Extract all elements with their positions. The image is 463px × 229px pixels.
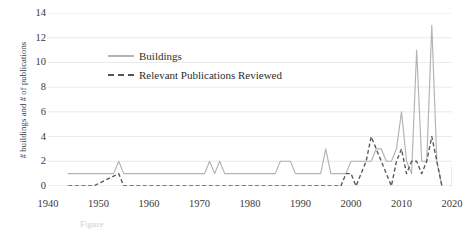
x-tick-label-1990: 1990: [290, 198, 311, 209]
y-tick-label-10: 10: [20, 57, 46, 68]
figure-caption: Figure: [80, 219, 280, 229]
legend-swatch-dashed-icon: [108, 74, 134, 76]
x-tick-label-1950: 1950: [88, 198, 109, 209]
legend-swatch-solid-icon: [108, 55, 134, 57]
y-tick-label-0: 0: [20, 181, 46, 192]
y-tick-label-14: 14: [20, 8, 46, 19]
legend-label-buildings: Buildings: [139, 50, 182, 62]
x-tick-label-1970: 1970: [189, 198, 210, 209]
y-tick-label-4: 4: [20, 131, 46, 142]
x-tick-label-1960: 1960: [139, 198, 160, 209]
legend-item-relevant-publications: Relevant Publications Reviewed: [108, 67, 282, 83]
y-tick-label-2: 2: [20, 156, 46, 167]
x-axis-tick-labels: 194019501960197019801990200020102020: [0, 198, 458, 214]
y-tick-label-8: 8: [20, 82, 46, 93]
plot-area: [48, 13, 452, 186]
y-tick-label-12: 12: [20, 32, 46, 43]
x-tick-label-2010: 2010: [391, 198, 412, 209]
legend-item-buildings: Buildings: [108, 48, 282, 64]
x-tick-label-1940: 1940: [38, 198, 59, 209]
y-axis-tick-labels: 14121086420: [0, 0, 46, 229]
chart-svg: [48, 13, 452, 186]
x-tick-label-1980: 1980: [240, 198, 261, 209]
x-tick-label-2020: 2020: [442, 198, 463, 209]
chart-legend: Buildings Relevant Publications Reviewed: [108, 48, 282, 86]
legend-label-relevant-publications: Relevant Publications Reviewed: [139, 69, 282, 81]
y-tick-label-6: 6: [20, 107, 46, 118]
x-tick-label-2000: 2000: [341, 198, 362, 209]
